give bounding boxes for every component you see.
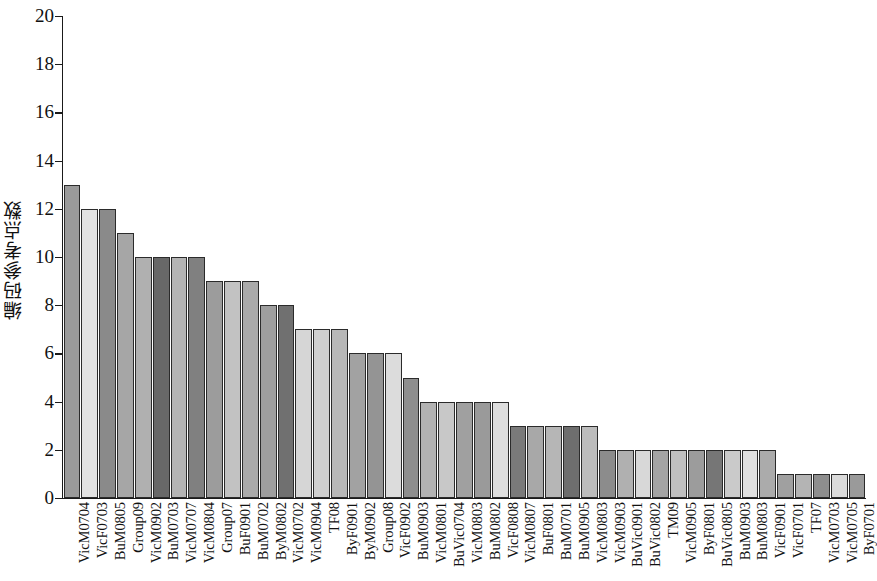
y-tick-label: 16 <box>16 102 54 122</box>
x-tick-label-text: VicM0804 <box>202 502 217 563</box>
bar <box>849 474 866 498</box>
y-tick-label: 2 <box>16 440 54 460</box>
x-tick-label-text: TF08 <box>327 502 342 533</box>
x-tick-label-text: ByM0902 <box>363 502 378 560</box>
bar <box>724 450 741 498</box>
y-tick-mark <box>55 64 63 65</box>
bar <box>331 329 348 498</box>
bar <box>510 426 527 498</box>
x-tick-label-text: VicF0701 <box>791 502 806 558</box>
x-tick-label-text: BuM0805 <box>113 502 128 560</box>
x-tick-label-text: ByM0802 <box>274 502 289 560</box>
bar <box>688 450 705 498</box>
bar <box>278 305 295 498</box>
bar <box>545 426 562 498</box>
bar <box>670 450 687 498</box>
x-tick-label-text: VicF0703 <box>95 502 110 558</box>
x-tick-label-text: VicM0801 <box>434 502 449 563</box>
x-tick-label-text: VicM0704 <box>77 502 92 563</box>
y-tick-mark <box>55 498 63 499</box>
x-tick-label-text: BuVic0704 <box>452 502 467 567</box>
bar <box>385 353 402 498</box>
bar <box>224 281 241 498</box>
x-tick-label-text: BuM0903 <box>738 502 753 560</box>
bar <box>474 402 491 498</box>
bar <box>438 402 455 498</box>
x-tick-label-text: BuVic0901 <box>630 502 645 567</box>
x-tick-label-text: TF07 <box>809 502 824 533</box>
y-tick-label-text: 14 <box>24 151 54 170</box>
bar <box>742 450 759 498</box>
y-tick-label-text: 8 <box>24 295 54 314</box>
y-tick-label-text: 16 <box>24 102 54 121</box>
bar <box>206 281 223 498</box>
bar <box>242 281 259 498</box>
x-tick-label-text: BuM0701 <box>559 502 574 560</box>
y-tick-label-text: 18 <box>24 54 54 73</box>
y-tick-label: 12 <box>16 199 54 219</box>
y-tick-label: 20 <box>16 6 54 26</box>
bar <box>456 402 473 498</box>
x-tick-label-text: BuVic0802 <box>648 502 663 567</box>
x-tick-label-text: ByF0901 <box>345 502 360 555</box>
x-tick-label-text: Group08 <box>381 502 396 553</box>
y-tick-mark <box>55 16 63 17</box>
x-tick-label-text: VicM0803 <box>595 502 610 563</box>
x-tick-label-text: BuM0903 <box>416 502 431 560</box>
y-tick-mark <box>55 257 63 258</box>
y-tick-label: 0 <box>16 488 54 508</box>
y-tick-mark <box>55 112 63 113</box>
bar <box>617 450 634 498</box>
y-tick-label: 4 <box>16 392 54 412</box>
bar <box>295 329 312 498</box>
y-tick-mark <box>55 353 63 354</box>
x-tick-label-text: TM09 <box>666 502 681 538</box>
bar <box>403 378 420 499</box>
x-tick-label-text: BuM0803 <box>755 502 770 560</box>
bar <box>135 257 152 498</box>
x-tick-label-text: VicM0903 <box>613 502 628 563</box>
x-tick-label-text: BuM0702 <box>256 502 271 560</box>
bar <box>777 474 794 498</box>
bar <box>706 450 723 498</box>
y-tick-label-text: 10 <box>24 247 54 266</box>
y-tick-label: 8 <box>16 295 54 315</box>
y-tick-label-text: 4 <box>24 392 54 411</box>
bar <box>599 450 616 498</box>
x-axis-line <box>62 498 866 499</box>
bar <box>188 257 205 498</box>
bar <box>831 474 848 498</box>
x-tick-label-text: BuM0802 <box>488 502 503 560</box>
y-tick-label: 14 <box>16 151 54 171</box>
x-tick-label-text: VicM0705 <box>845 502 860 563</box>
x-tick-label-text: VicF0808 <box>506 502 521 558</box>
bar <box>313 329 330 498</box>
x-tick-label-text: BuM0905 <box>577 502 592 560</box>
plot-area <box>63 16 866 498</box>
y-tick-mark <box>55 305 63 306</box>
bar <box>813 474 830 498</box>
y-tick-label-text: 20 <box>24 6 54 25</box>
x-tick-label-text: VicM0905 <box>684 502 699 563</box>
bar <box>349 353 366 498</box>
x-tick-label-text: BuM0703 <box>166 502 181 560</box>
y-tick-label-text: 6 <box>24 343 54 362</box>
bar <box>260 305 277 498</box>
bar <box>635 450 652 498</box>
bar <box>759 450 776 498</box>
bar <box>795 474 812 498</box>
x-tick-label-text: VicM0902 <box>149 502 164 563</box>
x-tick-label-text: Group09 <box>131 502 146 553</box>
x-tick-label-text: BuF0901 <box>238 502 253 555</box>
y-tick-label-text: 0 <box>24 488 54 507</box>
y-tick-mark <box>55 402 63 403</box>
y-tick-mark <box>55 161 63 162</box>
bar <box>652 450 669 498</box>
bar <box>117 233 134 498</box>
bar <box>99 209 116 498</box>
x-tick-label-text: VicM0703 <box>827 502 842 563</box>
y-tick-label-text: 2 <box>24 440 54 459</box>
bar <box>171 257 188 498</box>
x-tick-label-text: VicM0702 <box>291 502 306 563</box>
